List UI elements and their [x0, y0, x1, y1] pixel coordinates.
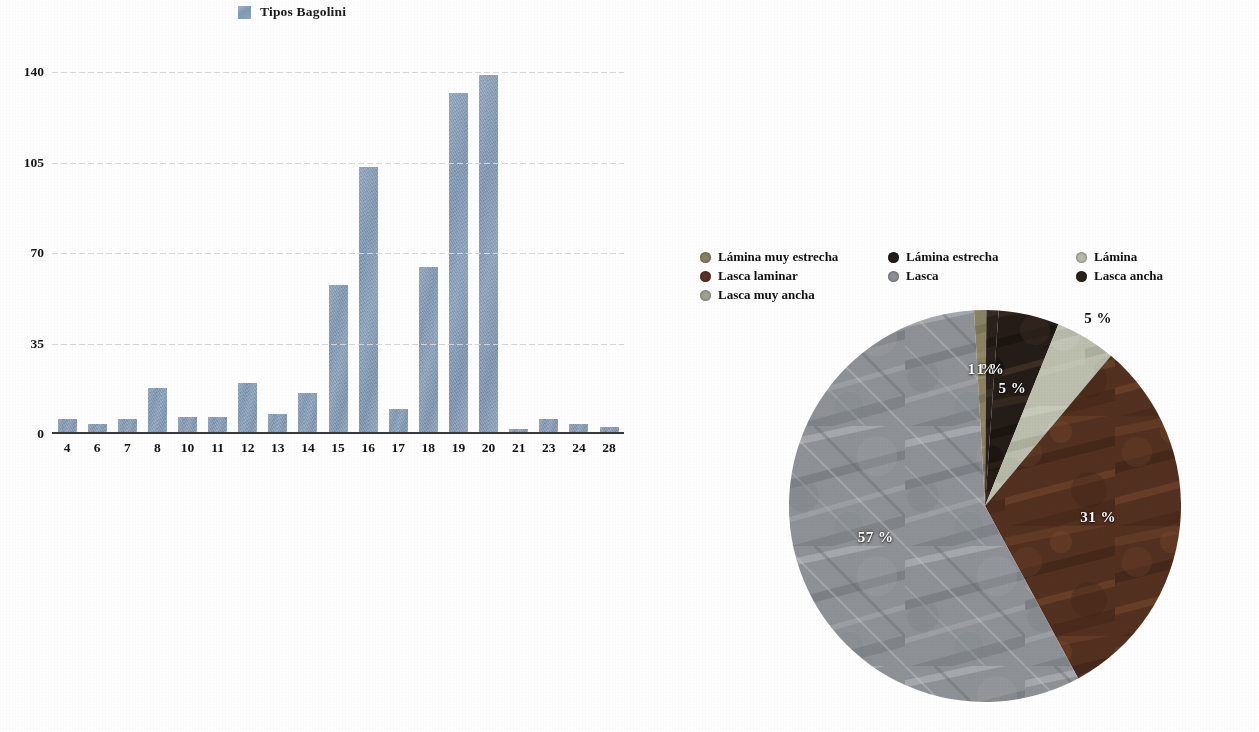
- x-axis-tick-label: 8: [142, 440, 172, 456]
- bar[interactable]: [58, 419, 77, 432]
- bar-slot: [323, 72, 353, 432]
- x-axis-tick-label: 10: [172, 440, 202, 456]
- bar-slot: [172, 72, 202, 432]
- x-axis-tick-label: 4: [52, 440, 82, 456]
- x-axis-tick-label: 11: [203, 440, 233, 456]
- pie-slice-label: 1 %: [976, 360, 1004, 377]
- bar-slot: [594, 72, 624, 432]
- x-axis-tick-label: 14: [293, 440, 323, 456]
- bar[interactable]: [569, 424, 588, 432]
- pie-legend-item[interactable]: Lasca laminar: [700, 267, 872, 285]
- legend-marker-icon: [700, 252, 711, 263]
- bar[interactable]: [359, 167, 378, 432]
- x-axis-tick-label: 6: [82, 440, 112, 456]
- pie-slice-label: 31 %: [1080, 509, 1116, 526]
- pie-chart: Lámina muy estrechaLámina estrechaLámina…: [700, 248, 1259, 718]
- x-axis-tick-label: 23: [534, 440, 564, 456]
- y-axis-tick-label: 35: [0, 335, 44, 351]
- legend-marker-icon: [888, 252, 899, 263]
- gridline: [52, 72, 624, 73]
- y-axis-labels: 03570105140: [0, 72, 44, 434]
- y-axis-tick-label: 70: [0, 245, 44, 261]
- legend-marker-icon: [1076, 252, 1087, 263]
- pie-legend-label: Lámina muy estrecha: [718, 249, 838, 265]
- x-axis-tick-label: 16: [353, 440, 383, 456]
- figure-container: Tipos Bagolini 03570105140 4678101112131…: [0, 0, 1259, 732]
- pie-slice-label: 5 %: [1084, 309, 1112, 326]
- bar[interactable]: [329, 285, 348, 432]
- bar-slot: [534, 72, 564, 432]
- x-axis-tick-label: 12: [233, 440, 263, 456]
- pie-legend-label: Lasca ancha: [1094, 268, 1163, 284]
- bar[interactable]: [539, 419, 558, 432]
- bar[interactable]: [208, 417, 227, 432]
- x-axis-tick-label: 28: [594, 440, 624, 456]
- bar[interactable]: [389, 409, 408, 432]
- pie-chart-plot-area: 5 %5 %31 %57 %1 %1 %: [785, 306, 1185, 706]
- x-axis-tick-label: 13: [263, 440, 293, 456]
- legend-swatch-icon: [238, 6, 251, 19]
- bar[interactable]: [509, 429, 528, 432]
- bar[interactable]: [268, 414, 287, 432]
- bar-slot: [52, 72, 82, 432]
- bar-chart: Tipos Bagolini 03570105140 4678101112131…: [0, 0, 660, 480]
- pie-legend-label: Lasca laminar: [718, 268, 798, 284]
- bar-chart-plot-area: [52, 72, 624, 434]
- bar-slot: [293, 72, 323, 432]
- bar[interactable]: [419, 267, 438, 432]
- bar-slot: [413, 72, 443, 432]
- x-axis-labels: 4678101112131415161718192021232428: [52, 440, 624, 456]
- pie-legend-label: Lasca: [906, 268, 939, 284]
- bar[interactable]: [238, 383, 257, 432]
- legend-spacer: [1076, 286, 1236, 304]
- x-axis-tick-label: 18: [413, 440, 443, 456]
- bar-slot: [263, 72, 293, 432]
- gridline: [52, 253, 624, 254]
- bar-slot: [564, 72, 594, 432]
- bar-slot: [383, 72, 413, 432]
- bar-chart-legend: Tipos Bagolini: [238, 4, 346, 20]
- x-axis-tick-label: 7: [112, 440, 142, 456]
- legend-marker-icon: [888, 271, 899, 282]
- x-axis-line: [52, 432, 624, 434]
- x-axis-tick-label: 21: [504, 440, 534, 456]
- bar-slot: [504, 72, 534, 432]
- x-axis-tick-label: 24: [564, 440, 594, 456]
- x-axis-tick-label: 17: [383, 440, 413, 456]
- bar[interactable]: [118, 419, 137, 432]
- bar-slot: [112, 72, 142, 432]
- pie-slice-label: 57 %: [858, 528, 894, 545]
- x-axis-tick-label: 19: [443, 440, 473, 456]
- bar[interactable]: [600, 427, 619, 432]
- gridline: [52, 344, 624, 345]
- bar[interactable]: [298, 393, 317, 432]
- pie-legend-item[interactable]: Lámina estrecha: [888, 248, 1060, 266]
- bar-slot: [474, 72, 504, 432]
- gridline: [52, 163, 624, 164]
- bar-slot: [82, 72, 112, 432]
- legend-marker-icon: [1076, 271, 1087, 282]
- bar-slot: [203, 72, 233, 432]
- legend-marker-icon: [700, 271, 711, 282]
- bar-slot: [142, 72, 172, 432]
- bar[interactable]: [88, 424, 107, 432]
- y-axis-tick-label: 0: [0, 426, 44, 442]
- pie-legend-item[interactable]: Lámina: [1076, 248, 1236, 266]
- bar-series: [52, 72, 624, 432]
- bar-slot: [233, 72, 263, 432]
- pie-legend-item[interactable]: Lasca: [888, 267, 1060, 285]
- pie-legend-item[interactable]: Lasca ancha: [1076, 267, 1236, 285]
- bar[interactable]: [148, 388, 167, 432]
- legend-marker-icon: [700, 290, 711, 301]
- bar-slot: [353, 72, 383, 432]
- bar-chart-legend-label: Tipos Bagolini: [260, 4, 346, 20]
- pie-legend-item[interactable]: Lasca muy ancha: [700, 286, 872, 304]
- pie-legend-item[interactable]: Lámina muy estrecha: [700, 248, 872, 266]
- pie-legend-label: Lámina estrecha: [906, 249, 999, 265]
- bar[interactable]: [178, 417, 197, 432]
- y-axis-tick-label: 140: [0, 64, 44, 80]
- pie-chart-legend: Lámina muy estrechaLámina estrechaLámina…: [700, 248, 1259, 304]
- legend-spacer: [888, 286, 1060, 304]
- pie-legend-label: Lasca muy ancha: [718, 287, 815, 303]
- bar[interactable]: [449, 93, 468, 432]
